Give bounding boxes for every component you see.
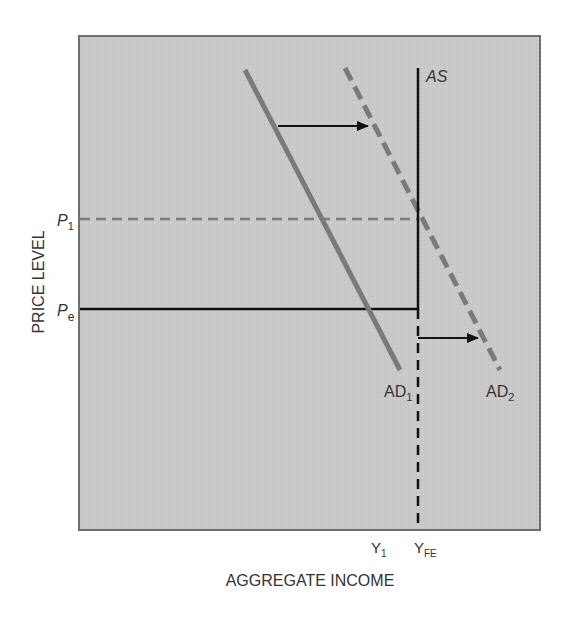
- as-ad-diagram: AS AD1 AD2 P1 Pe Y1 YFE AGGREGATE INCOME…: [0, 0, 566, 627]
- yfe-label: YFE: [414, 539, 437, 559]
- p1-label: P1: [57, 212, 74, 232]
- plot-panel: [79, 36, 540, 530]
- pe-label: Pe: [57, 302, 75, 324]
- x-axis-label: AGGREGATE INCOME: [226, 572, 395, 589]
- as-label: AS: [425, 68, 448, 85]
- y-axis-label: PRICE LEVEL: [30, 230, 47, 333]
- y1-label: Y1: [371, 539, 387, 559]
